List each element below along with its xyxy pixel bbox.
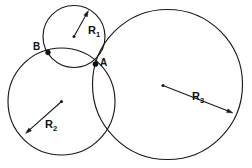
radius-arrowhead-r1: [84, 11, 89, 17]
radius-label-r2: R2: [45, 118, 57, 133]
circle-r3-outline: [93, 10, 243, 160]
radius-label-r3: R3: [192, 90, 204, 105]
radius-label-r3-subscript: 3: [200, 96, 204, 105]
center-dot-r1: [73, 35, 76, 38]
radius-label-r2-subscript: 2: [53, 124, 57, 133]
point-label-a: A: [100, 57, 107, 68]
radius-arrowhead-r3: [226, 109, 233, 113]
diagram-canvas: R1 R2 R3 A B: [0, 0, 252, 168]
point-label-b: B: [33, 41, 40, 52]
radius-label-r1: R1: [88, 24, 100, 39]
center-dot-r3: [162, 84, 165, 87]
intersection-point-a-dot: [93, 61, 98, 66]
radius-line-r1: [74, 13, 87, 36]
radius-label-r1-subscript: 1: [96, 30, 100, 39]
center-dot-r2: [60, 100, 63, 103]
intersection-point-b-dot: [46, 50, 51, 55]
radius-label-r2-base: R: [45, 118, 53, 130]
geometry-diagram: R1 R2 R3 A B: [0, 0, 252, 168]
radius-label-r1-base: R: [88, 24, 96, 36]
radius-label-r3-base: R: [192, 90, 200, 102]
